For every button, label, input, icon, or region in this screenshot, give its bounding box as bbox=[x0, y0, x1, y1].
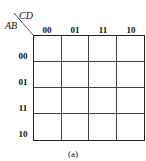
kmap-cell bbox=[34, 62, 62, 88]
kmap-cell bbox=[62, 36, 90, 62]
kmap-cell bbox=[62, 88, 90, 114]
row-variable-label: AB bbox=[5, 21, 17, 31]
column-label-11: 11 bbox=[89, 26, 117, 35]
kmap-cell bbox=[89, 114, 117, 140]
kmap-cell bbox=[89, 88, 117, 114]
kmap-cell bbox=[89, 36, 117, 62]
column-label-01: 01 bbox=[61, 26, 89, 35]
row-label-01: 01 bbox=[15, 78, 31, 87]
column-label-10: 10 bbox=[117, 26, 145, 35]
kmap-cell bbox=[117, 36, 145, 62]
column-variable-label: CD bbox=[19, 11, 33, 21]
row-label-10: 10 bbox=[15, 130, 31, 139]
kmap-cell bbox=[34, 114, 62, 140]
kmap-cell bbox=[34, 36, 62, 62]
kmap-cell bbox=[62, 114, 90, 140]
row-label-00: 00 bbox=[15, 52, 31, 61]
kmap-cell bbox=[117, 62, 145, 88]
kmap-cell bbox=[62, 62, 90, 88]
row-label-11: 11 bbox=[15, 104, 31, 113]
column-label-00: 00 bbox=[33, 26, 61, 35]
kmap-cell bbox=[117, 88, 145, 114]
kmap-cell bbox=[34, 88, 62, 114]
figure-caption: (a) bbox=[0, 150, 146, 159]
kmap-cell bbox=[117, 114, 145, 140]
kmap-grid bbox=[33, 35, 145, 141]
kmap-cell bbox=[89, 62, 117, 88]
